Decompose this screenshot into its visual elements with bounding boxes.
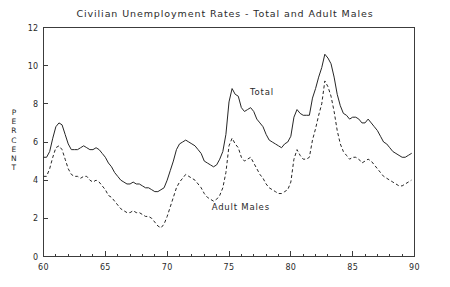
y-tick-label: 2 <box>33 214 38 223</box>
axis-frame-path <box>44 28 415 257</box>
y-tick-label: 8 <box>33 100 38 109</box>
chart-figure: Civilian Unemployment Rates - Total and … <box>0 0 450 287</box>
y-tick-label: 12 <box>28 24 39 33</box>
x-tick-label: 90 <box>409 263 420 272</box>
series-annotation-adult-males: Adult Males <box>212 202 270 212</box>
x-tick-label: 75 <box>224 263 235 272</box>
y-tick-label: 0 <box>33 253 38 262</box>
x-tick-label: 80 <box>285 263 296 272</box>
x-axis-ticks: 60657075808590 <box>38 251 420 272</box>
y-tick-label: 4 <box>33 176 38 185</box>
y-tick-label: 10 <box>28 62 39 71</box>
y-axis-ticks: 024681012 <box>28 24 48 262</box>
series-annotation-total: Total <box>249 87 274 97</box>
y-tick-label: 6 <box>33 138 38 147</box>
plot-area: 024681012 60657075808590 TotalAdult Male… <box>0 0 450 287</box>
x-tick-label: 65 <box>100 263 111 272</box>
series-line-total <box>44 54 412 191</box>
x-tick-label: 70 <box>162 263 173 272</box>
x-tick-label: 60 <box>38 263 49 272</box>
x-tick-label: 85 <box>347 263 358 272</box>
axis-frame <box>44 28 415 257</box>
